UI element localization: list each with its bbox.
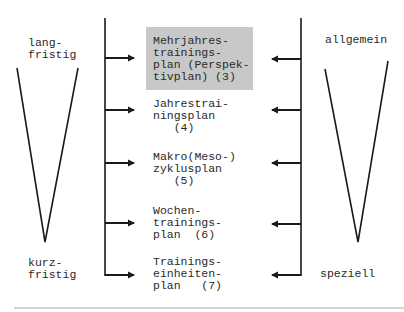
plan-trainingseinheitenplan: Trainings- einheiten- plan (7) <box>153 256 222 292</box>
label-langfristig: lang- fristig <box>28 37 76 61</box>
plan-mehrjahrestrainingsplan: Mehrjahres- trainings- plan (Perspek- ti… <box>153 35 250 83</box>
plan-jahrestrainingsplan: Jahrestrai- ningsplan (4) <box>153 98 229 134</box>
label-allgemein: allgemein <box>325 34 387 46</box>
right-v-wedge <box>325 61 388 242</box>
label-speziell: speziell <box>320 268 375 280</box>
label-kurzfristig: kurz- fristig <box>28 257 76 281</box>
plan-makrozyklusplan: Makro(Meso-) zyklusplan (5) <box>153 151 236 187</box>
plan-wochentrainingsplan: Wochen- trainings- plan (6) <box>153 205 222 241</box>
bottom-rule <box>14 307 404 309</box>
left-v-wedge <box>17 68 78 242</box>
